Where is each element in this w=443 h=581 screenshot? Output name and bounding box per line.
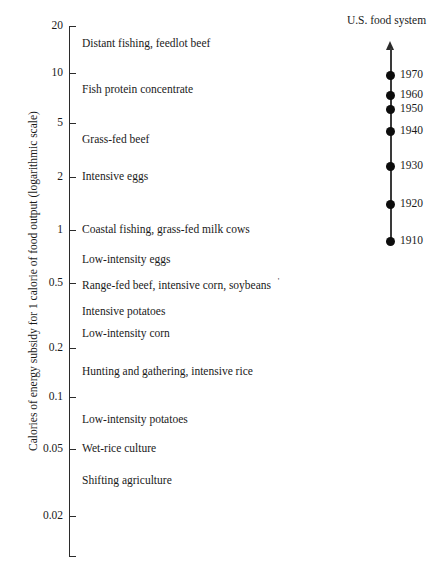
y-axis-tick-mark [69, 449, 76, 450]
y-axis-tick-label: 0.5 [6, 277, 63, 289]
data-point-label: Wet-rice culture [82, 443, 156, 455]
data-point-label-text: Coastal fishing, grass-fed milk cows [82, 223, 250, 235]
data-point-label-text: Intensive eggs [82, 170, 148, 182]
data-point-label-text: Shifting agriculture [82, 474, 172, 486]
data-point-label: Low-intensity eggs [82, 254, 170, 266]
y-axis-tick-label: 2 [6, 171, 63, 183]
timeline-dot [386, 237, 395, 246]
timeline-year-label: 1910 [400, 235, 423, 247]
timeline-year-label: 1950 [400, 103, 423, 115]
y-axis-tick-label: 0.2 [6, 342, 63, 354]
timeline-dot [386, 127, 395, 136]
data-point-label: Hunting and gathering, intensive rice [82, 366, 253, 378]
y-axis-tick-mark [69, 283, 76, 284]
y-axis-tick-label: 20 [6, 20, 63, 32]
chart-figure: Calories of energy subsidy for 1 calorie… [0, 0, 443, 581]
timeline-dot [386, 105, 395, 114]
data-point-label: Intensive eggs [82, 171, 148, 183]
data-point-label-text: Low-intensity corn [82, 327, 170, 339]
data-point-label: Range-fed beef, intensive corn, soybeans… [82, 277, 279, 291]
y-axis-tick-label: 1 [6, 224, 63, 236]
timeline-title: U.S. food system [330, 14, 443, 26]
y-axis-line [69, 26, 70, 556]
data-point-label: Coastal fishing, grass-fed milk cows [82, 224, 250, 236]
data-point-label: Low-intensity potatoes [82, 414, 188, 426]
data-point-label: Fish protein concentrate [82, 84, 193, 96]
timeline-year-label: 1930 [400, 160, 423, 172]
timeline-dot [386, 162, 395, 171]
timeline-dot [386, 91, 395, 100]
y-axis-tick-mark [69, 73, 76, 74]
data-point-label: Intensive potatoes [82, 306, 165, 318]
data-point-label-text: Hunting and gathering, intensive rice [82, 365, 253, 377]
data-point-label-text: Low-intensity eggs [82, 253, 170, 265]
y-axis-tick-label: 0.1 [6, 391, 63, 403]
data-point-label-text: Fish protein concentrate [82, 83, 193, 95]
data-point-label-text: Distant fishing, feedlot beef [82, 37, 210, 49]
timeline-year-label: 1940 [400, 125, 423, 137]
timeline-dot [386, 71, 395, 80]
y-axis-tick-label: 0.02 [6, 510, 63, 522]
data-point-label: Shifting agriculture [82, 475, 172, 487]
data-point-label-text: Wet-rice culture [82, 442, 156, 454]
data-point-label: Grass-fed beef [82, 134, 149, 146]
y-axis-tick-mark [69, 516, 76, 517]
timeline-year-label: 1970 [400, 69, 423, 81]
y-axis-tick-mark [69, 230, 76, 231]
data-point-label: Distant fishing, feedlot beef [82, 38, 210, 50]
y-axis-tick-mark [69, 123, 76, 124]
y-axis-tick-label: 10 [6, 67, 63, 79]
timeline-dot [386, 200, 395, 209]
y-axis-bottom-cap [69, 556, 76, 557]
y-axis-tick-mark [69, 26, 76, 27]
data-point-label-text: Intensive potatoes [82, 305, 165, 317]
timeline-year-label: 1960 [400, 89, 423, 101]
y-axis-tick-mark [69, 397, 76, 398]
y-axis-tick-mark [69, 348, 76, 349]
y-axis-tick-label: 5 [6, 117, 63, 129]
y-axis-tick-mark [69, 177, 76, 178]
y-axis-tick-label: 0.05 [6, 443, 63, 455]
data-point-label: Low-intensity corn [82, 328, 170, 340]
timeline-year-label: 1920 [400, 198, 423, 210]
stray-mark: ' [271, 276, 279, 286]
data-point-label-text: Range-fed beef, intensive corn, soybeans [82, 279, 271, 291]
data-point-label-text: Grass-fed beef [82, 133, 149, 145]
data-point-label-text: Low-intensity potatoes [82, 413, 188, 425]
